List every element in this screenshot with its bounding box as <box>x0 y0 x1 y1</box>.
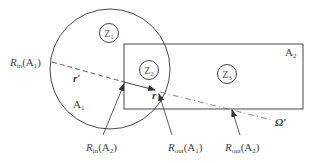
rout-a2-label: Rout(A2) <box>225 141 259 157</box>
pointer-rout-a2 <box>232 110 240 135</box>
region-a1-label: A1 <box>73 98 84 114</box>
omega-dashdot-line <box>160 92 272 120</box>
r-prime-dashed-line <box>52 62 124 82</box>
pointer-rin-a2 <box>103 84 124 135</box>
rin-a2-label: Rin(A2) <box>86 141 117 157</box>
omega-prime-label: Ω′ <box>275 116 286 128</box>
rin-a1-label: Rin(A1) <box>10 56 41 72</box>
pointer-rout-a1 <box>159 94 172 135</box>
r-arrow <box>124 82 155 90</box>
zone-z3: Z3 <box>217 64 237 84</box>
r-label: r <box>152 89 156 101</box>
r-prime-label: r′ <box>73 72 80 84</box>
region-a2-label: A2 <box>285 46 296 62</box>
diagram-canvas: Z1 Z2 Z3 A1 A2 r′ r Ω′ Rin(A1) Rin(A2) R… <box>0 0 315 163</box>
diagram-graphics <box>0 0 315 163</box>
rout-a1-label: Rout(A1) <box>168 141 202 157</box>
zone-z1: Z1 <box>99 23 119 43</box>
zone-z2: Z2 <box>139 60 159 80</box>
